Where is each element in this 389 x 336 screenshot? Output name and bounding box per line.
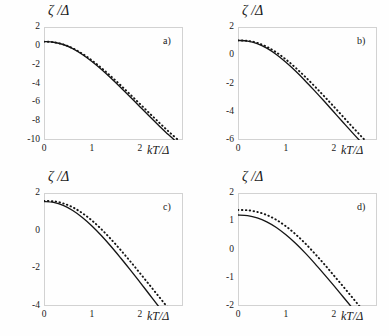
x-tick-label: 2 bbox=[130, 143, 150, 153]
x-tick-label: 0 bbox=[228, 143, 248, 153]
x-axis-label: kT/Δ bbox=[147, 143, 169, 158]
curve-dotted bbox=[44, 201, 183, 306]
y-tick-label: -1 bbox=[212, 272, 234, 282]
x-axis-label: kT/Δ bbox=[341, 309, 363, 324]
plot-panel-a: a) bbox=[44, 27, 183, 140]
y-tick-label: -4 bbox=[18, 78, 40, 88]
curve-dotted bbox=[238, 210, 377, 306]
curve-dotted bbox=[238, 40, 377, 140]
y-tick-label: 2 bbox=[212, 21, 234, 31]
x-axis-label: kT/Δ bbox=[341, 143, 363, 158]
x-tick-label: 2 bbox=[324, 143, 344, 153]
x-tick-label: 1 bbox=[276, 309, 296, 319]
x-tick-label: 2 bbox=[324, 309, 344, 319]
y-tick-label: -2 bbox=[18, 59, 40, 69]
plot-frame bbox=[239, 194, 377, 306]
y-axis-label: ζ /Δ bbox=[48, 3, 69, 19]
plot-panel-b: b) bbox=[238, 27, 377, 140]
x-tick-label: 0 bbox=[34, 143, 54, 153]
x-tick-label: 0 bbox=[34, 309, 54, 319]
x-tick-label: 2 bbox=[130, 309, 150, 319]
y-tick-label: 2 bbox=[18, 187, 40, 197]
panel-label: c) bbox=[163, 201, 171, 212]
y-axis-label: ζ /Δ bbox=[242, 3, 263, 19]
x-tick-label: 1 bbox=[276, 143, 296, 153]
x-tick-label: 1 bbox=[82, 143, 102, 153]
y-tick-label: -6 bbox=[18, 96, 40, 106]
y-tick-label: 2 bbox=[18, 21, 40, 31]
figure-canvas: a)ζ /ΔkT/Δ20-2-4-6-8-10012b)ζ /ΔkT/Δ20-2… bbox=[0, 0, 389, 336]
panel-label: d) bbox=[357, 201, 365, 212]
panel-label: b) bbox=[357, 35, 365, 46]
y-tick-label: 0 bbox=[212, 244, 234, 254]
x-axis-label: kT/Δ bbox=[147, 309, 169, 324]
curve-dotted bbox=[44, 42, 183, 140]
plot-panel-c: c) bbox=[44, 193, 183, 306]
y-tick-label: -2 bbox=[18, 262, 40, 272]
x-tick-label: 0 bbox=[228, 309, 248, 319]
curve-solid bbox=[238, 40, 377, 140]
y-tick-label: 0 bbox=[18, 40, 40, 50]
x-tick-label: 1 bbox=[82, 309, 102, 319]
plot-panel-d: d) bbox=[238, 193, 377, 306]
y-tick-label: -2 bbox=[212, 78, 234, 88]
y-tick-label: 2 bbox=[212, 187, 234, 197]
y-axis-label: ζ /Δ bbox=[48, 169, 69, 185]
plot-frame bbox=[45, 28, 183, 140]
y-tick-label: 1 bbox=[212, 215, 234, 225]
y-tick-label: 0 bbox=[212, 49, 234, 59]
y-tick-label: -8 bbox=[18, 115, 40, 125]
y-tick-label: -4 bbox=[212, 106, 234, 116]
y-axis-label: ζ /Δ bbox=[242, 169, 263, 185]
panel-label: a) bbox=[163, 35, 171, 46]
curve-solid bbox=[238, 215, 377, 306]
curve-solid bbox=[44, 201, 183, 306]
y-tick-label: 0 bbox=[18, 225, 40, 235]
